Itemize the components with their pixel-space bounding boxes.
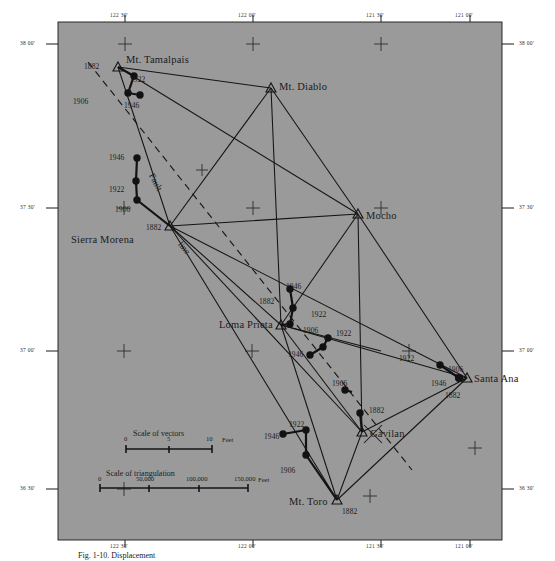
vectors-sierra-morena: [133, 155, 170, 226]
epoch-label-mt-toro-1906: 1906: [280, 467, 295, 475]
epoch-label-loma-prieta-1922b: 1922: [336, 330, 351, 338]
scale-of-triangulation-tick-2: 100,000: [186, 476, 207, 483]
epoch-label-sierra-morena-1946: 1946: [109, 154, 124, 162]
longitude-label-top-2: 121 30': [366, 13, 384, 18]
scale-of-vectors-tick-1: 5: [167, 436, 170, 443]
epoch-label-santa-ana-1906: 1906: [448, 366, 463, 374]
latitude-label-left-0: 38 00': [20, 41, 35, 46]
latitude-label-left-1: 37 30': [20, 205, 35, 210]
scale-of-triangulation-tick-1: 50,000: [136, 476, 154, 483]
station-label-santa-ana: Santa Ana: [474, 374, 519, 385]
station-label-loma-prieta: Loma Prieta: [219, 320, 273, 331]
scale-of-triangulation-unit: Feet: [258, 477, 269, 484]
scale-of-vectors-unit: Feet: [222, 437, 233, 444]
epoch-label-santa-ana-1922: 1922: [399, 355, 414, 363]
epoch-label-loma-prieta-1906: 1906: [303, 327, 318, 335]
map-svg: [0, 0, 555, 561]
epoch-label-loma-prieta-1946b: 1946: [288, 351, 303, 359]
epoch-label-sierra-morena-1922: 1922: [109, 186, 124, 194]
epoch-label-mt-toro-1922: 1922: [289, 421, 304, 429]
scale-of-triangulation-tick-0: 0: [98, 476, 101, 483]
latitude-label-left-3: 36 30': [20, 486, 35, 491]
latitude-label-right-3: 36 30': [519, 486, 534, 491]
map-vector-layer: [0, 0, 555, 561]
longitude-label-top-3: 121 00': [455, 13, 473, 18]
figure-root: 122 30' 122 00' 121 30' 121 00' 122 30' …: [0, 0, 555, 561]
epoch-label-mt-toro-1882: 1882: [342, 508, 357, 516]
station-label-mt-diablo: Mt. Diablo: [279, 82, 327, 93]
vectors-mt-toro: [280, 427, 337, 500]
epoch-label-tamalpais-1922: 1922: [130, 76, 145, 84]
epoch-label-santa-ana-1946: 1946: [431, 380, 446, 388]
latitude-label-right-0: 38 00': [519, 41, 534, 46]
epoch-label-santa-ana-1882: 1882: [445, 392, 460, 400]
longitude-label-top-0: 122 30': [110, 13, 128, 18]
epoch-label-gavilan-1906: 1906: [332, 380, 347, 388]
scale-of-vectors-bar: [126, 445, 212, 453]
longitude-label-top-1: 122 00': [238, 13, 256, 18]
fault-line: [88, 62, 412, 470]
vectors-loma-prieta-secondary: [307, 335, 330, 357]
longitude-label-bottom-1: 122 00': [238, 544, 256, 549]
epoch-label-tamalpais-1906: 1906: [73, 98, 88, 106]
latitude-label-right-1: 37 30': [519, 205, 534, 210]
epoch-label-gavilan-1882: 1882: [369, 407, 384, 415]
plate-border: [58, 22, 502, 540]
epoch-label-sierra-morena-1906: 1906: [115, 206, 130, 214]
scale-of-vectors-tick-2: 10: [206, 436, 213, 443]
longitude-label-bottom-0: 122 30': [110, 544, 128, 549]
epoch-label-tamalpais-1946: 1946: [124, 102, 139, 110]
epoch-label-mt-toro-1946: 1946: [264, 433, 279, 441]
station-label-mt-tamalpais: Mt. Tamalpais: [126, 55, 189, 66]
station-label-mocho: Mocho: [366, 211, 397, 222]
longitude-label-bottom-3: 121 00': [455, 544, 473, 549]
scale-of-vectors-title: Scale of vectors: [133, 430, 184, 438]
latitude-label-left-2: 37 00': [20, 348, 35, 353]
longitude-label-bottom-2: 121 30': [366, 544, 384, 549]
epoch-label-tamalpais-1882: 1882: [84, 63, 99, 71]
station-label-gavilan: Gavilan: [370, 429, 405, 440]
scale-of-triangulation-bar: [100, 484, 248, 492]
epoch-label-sierra-morena-1882: 1882: [146, 224, 161, 232]
station-label-sierra-morena: Sierra Morena: [71, 235, 134, 246]
scale-of-vectors-tick-0: 0: [124, 436, 127, 443]
epoch-label-loma-prieta-1922: 1922: [311, 311, 326, 319]
figure-caption: Fig. 1-10. Displacement: [78, 552, 155, 560]
latitude-label-right-2: 37 00': [519, 348, 534, 353]
epoch-label-loma-prieta-1882: 1882: [259, 298, 274, 306]
station-label-mt-toro: Mt. Toro: [289, 497, 328, 508]
epoch-label-loma-prieta-1946: 1946: [286, 283, 301, 291]
scale-of-triangulation-tick-3: 150,000: [234, 476, 255, 483]
